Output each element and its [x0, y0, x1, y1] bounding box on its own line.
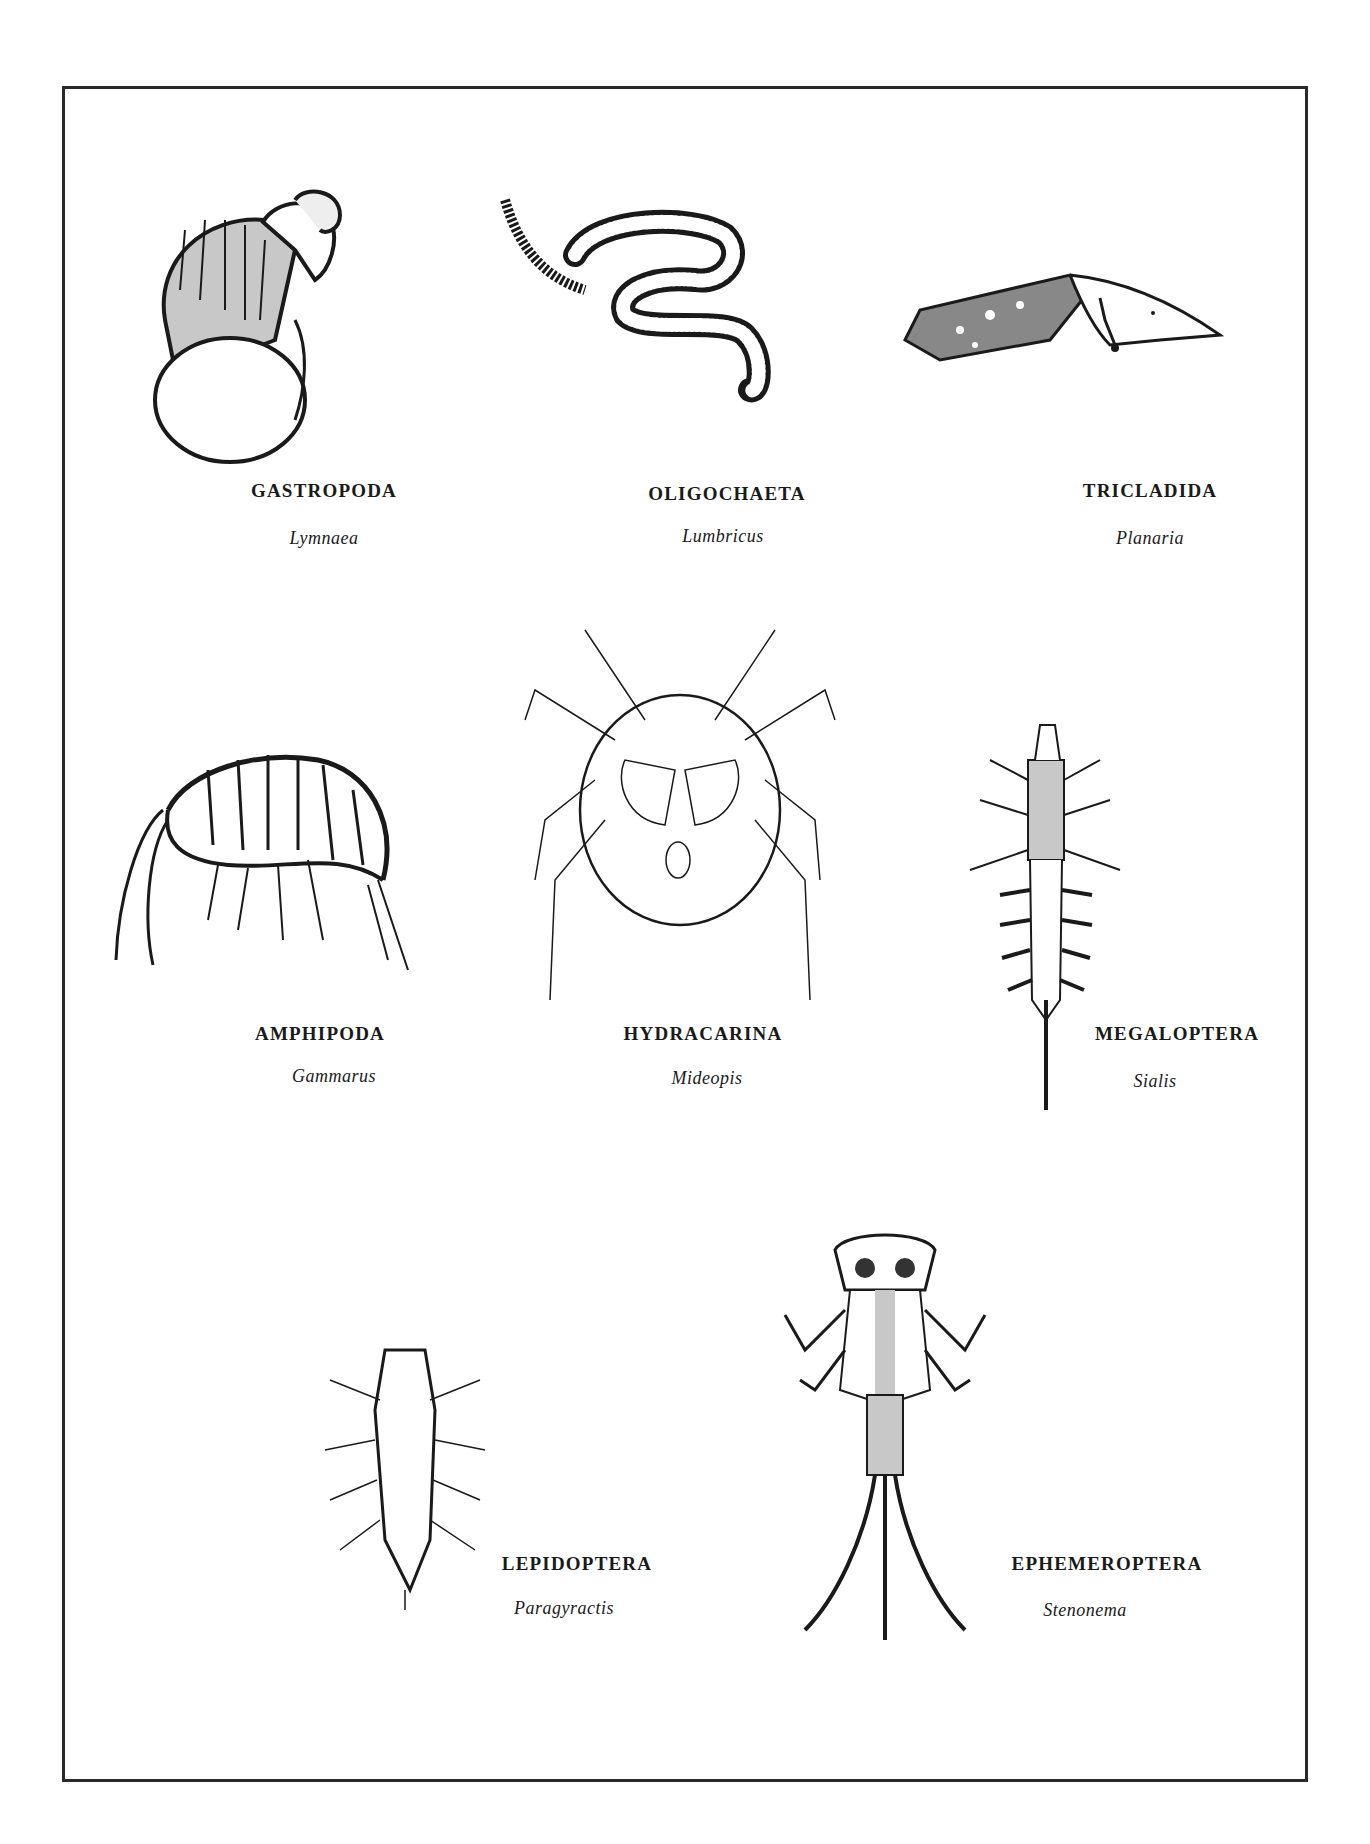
genus-label-mideopis: Mideopis — [672, 1068, 743, 1089]
order-label-lepidoptera: LEPIDOPTERA — [502, 1553, 652, 1575]
worm-illustration — [495, 195, 795, 395]
alderfly-larva-illustration — [960, 720, 1140, 1110]
caterpillar-illustration — [325, 1340, 485, 1610]
genus-label-stenonema: Stenonema — [1043, 1600, 1126, 1621]
genus-label-gammarus: Gammarus — [292, 1066, 376, 1087]
order-label-tricladida: TRICLADIDA — [1083, 480, 1217, 502]
water-mite-illustration — [515, 620, 845, 1000]
genus-label-sialis: Sialis — [1133, 1071, 1176, 1092]
order-label-ephemeroptera: EPHEMEROPTERA — [1012, 1553, 1203, 1575]
order-label-megaloptera: MEGALOPTERA — [1095, 1023, 1259, 1045]
amphipod-illustration — [108, 750, 408, 980]
mayfly-nymph-illustration — [775, 1220, 995, 1640]
planaria-illustration — [900, 260, 1230, 370]
order-label-hydracarina: HYDRACARINA — [624, 1023, 783, 1045]
order-label-gastropoda: GASTROPODA — [251, 480, 397, 502]
order-label-oligochaeta: OLIGOCHAETA — [648, 483, 805, 505]
snail-illustration — [145, 190, 355, 460]
genus-label-lymnaea: Lymnaea — [290, 528, 359, 549]
genus-label-planaria: Planaria — [1116, 528, 1184, 549]
genus-label-paragyractis: Paragyractis — [514, 1598, 614, 1619]
genus-label-lumbricus: Lumbricus — [682, 526, 764, 547]
order-label-amphipoda: AMPHIPODA — [255, 1023, 385, 1045]
